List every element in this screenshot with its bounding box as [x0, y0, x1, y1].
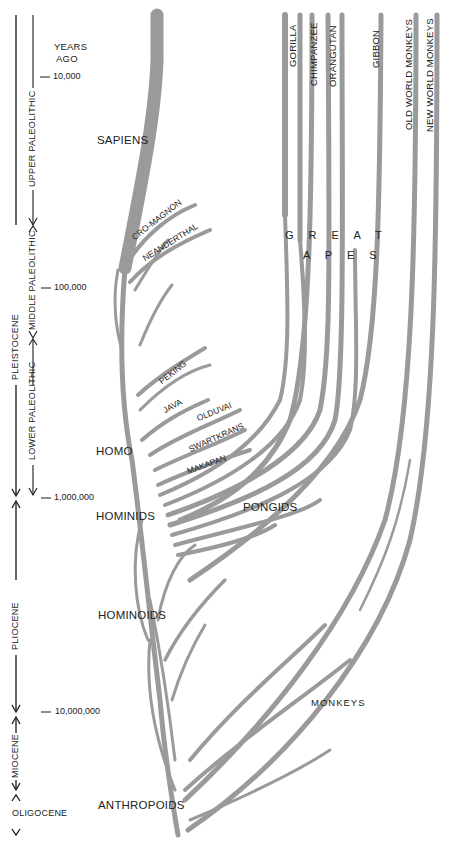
label-hominids: HOMINIDS: [96, 510, 155, 522]
label-chimpanzee: CHIMPANZEE: [308, 22, 319, 86]
epoch-pleistocene: PLEISTOCENE: [10, 314, 20, 380]
epoch-miocene: MIOCENE: [10, 734, 20, 778]
branches: [115, 15, 437, 835]
label-great-apes-2: A P E S: [303, 249, 383, 261]
label-gibbon: GIBBON: [370, 30, 381, 68]
tick-100000: 100,000: [54, 282, 87, 292]
label-hominoids: HOMINOIDS: [98, 609, 166, 621]
period-lower-paleolithic: LOWER PALEOLITHIC: [27, 362, 37, 460]
label-old-world-monkeys: OLD WORLD MONKEYS: [403, 19, 414, 130]
evolution-tree: [0, 0, 449, 850]
tick-1000000: 1,000,000: [54, 492, 94, 502]
label-great-apes-1: G R E A T: [285, 229, 388, 241]
label-anthropoids: ANTHROPOIDS: [98, 799, 185, 811]
tick-marks: [40, 77, 51, 712]
tick-10000000: 10,000,000: [55, 706, 100, 716]
label-pongids: PONGIDS: [243, 501, 297, 513]
label-gorilla: GORILLA: [287, 24, 298, 67]
label-monkeys: MONKEYS: [311, 697, 366, 708]
period-upper-paleolithic: UPPER PALEOLITHIC: [27, 91, 37, 187]
epoch-pliocene: PLIOCENE: [10, 602, 20, 650]
tick-10000: 10,000: [53, 71, 81, 81]
label-sapiens: SAPIENS: [97, 134, 148, 146]
epoch-axis: [12, 15, 20, 835]
years-ago-header-line2: AGO: [56, 53, 78, 64]
label-new-world-monkeys: NEW WORLD MONKEYS: [424, 18, 435, 132]
label-orangutan: ORANGUTAN: [327, 25, 338, 87]
period-middle-paleolithic: MIDDLE PALEOLITHIC: [27, 230, 37, 330]
label-homo: HOMO: [96, 445, 133, 457]
epoch-oligocene: OLIGOCENE: [12, 808, 67, 818]
years-ago-header-line1: YEARS: [54, 41, 87, 52]
